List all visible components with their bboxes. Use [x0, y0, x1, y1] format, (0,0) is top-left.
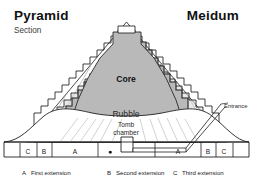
scale-mark-right-c: C [222, 148, 227, 155]
tomb-chamber-shaft [121, 137, 133, 152]
legend-text-a: First extension [31, 169, 71, 176]
legend-key-b: B [107, 169, 111, 176]
scale-mark-left-c: C [26, 148, 31, 155]
page-title-left: Pyramid [14, 8, 69, 23]
legend: A First extension B Second extension C T… [22, 169, 224, 176]
scale-mark-left-a: A [73, 148, 78, 155]
rubble-label: Rubble [112, 109, 139, 119]
page-subtitle: Section [14, 26, 42, 35]
page-title-right: Meidum [187, 8, 239, 23]
tomb-chamber-label-line2: chamber [113, 129, 139, 136]
apex-cap [118, 26, 135, 33]
center-axis-marker: ● [108, 148, 112, 155]
core-label: Core [116, 74, 136, 84]
scale-mark-right-a: A [176, 148, 181, 155]
entrance-label: Entrance [224, 103, 248, 109]
tomb-chamber-label-line1: Tomb [118, 121, 134, 128]
scale-mark-left-b: B [42, 148, 47, 155]
legend-key-c: C [173, 169, 178, 176]
pyramid-section-diagram: Pyramid Section Meidum [0, 0, 253, 187]
scale-mark-right-b: B [206, 148, 211, 155]
legend-text-c: Third extension [182, 169, 224, 176]
legend-text-b: Second extension [116, 169, 164, 176]
